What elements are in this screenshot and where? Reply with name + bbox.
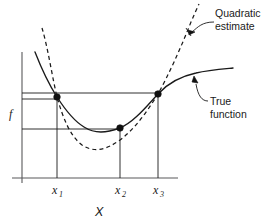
curves-group [35, 4, 233, 150]
axis-labels-group: f X [9, 107, 104, 219]
leader-lines-group [186, 22, 214, 101]
tick-labels-group: x 1 x 2 x 3 [51, 183, 164, 199]
annotation-quadratic-estimate: Quadratic estimate [215, 7, 261, 32]
true-function-label-line2: function [210, 108, 247, 120]
tick-label-x2-sub: 2 [122, 190, 126, 199]
point-x3-marker [155, 91, 162, 98]
point-x2-marker [117, 125, 124, 132]
quadratic-estimate-figure: x 1 x 2 x 3 f X Quadratic estimate True … [0, 0, 280, 222]
annotation-true-function: True function [210, 95, 247, 120]
point-x1-marker [54, 94, 61, 101]
figure-canvas: x 1 x 2 x 3 f X Quadratic estimate True … [0, 0, 280, 222]
quadratic-estimate-leader [192, 22, 214, 32]
x-axis-label: X [94, 205, 104, 219]
true-function-label-line1: True [210, 95, 231, 107]
tick-label-x1-base: x [51, 183, 58, 197]
tick-label-x2-base: x [114, 183, 121, 197]
quadratic-estimate-label-line2: estimate [215, 20, 255, 32]
helper-lines-group [22, 93, 158, 178]
tick-label-x1-sub: 1 [59, 190, 63, 199]
tick-label-x3-base: x [152, 183, 159, 197]
true-function-arrowhead [192, 76, 198, 83]
y-axis-label: f [9, 107, 14, 121]
true-function-leader [196, 84, 208, 101]
quadratic-estimate-label-line1: Quadratic [215, 7, 261, 19]
axes-group [12, 52, 178, 183]
data-points-group [54, 91, 162, 132]
tick-label-x3-sub: 3 [159, 190, 164, 199]
